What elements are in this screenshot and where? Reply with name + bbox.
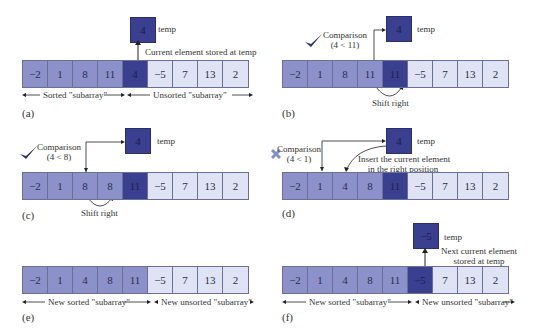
array-cell: 1 — [308, 173, 333, 199]
array-cell: 8 — [358, 173, 383, 199]
comparison-title: Comparison — [36, 142, 82, 152]
array-cell: 11 — [358, 61, 383, 87]
arrows — [260, 220, 520, 330]
array-cell: −5 — [408, 173, 433, 199]
panel-e: −2 1 4 8 11 −5 7 13 2 New sorted "subarr… — [0, 220, 260, 330]
unsorted-range-label: New unsorted "subarray" — [161, 297, 252, 307]
array: −2 1 8 8 11 −5 7 13 2 — [22, 172, 249, 200]
panel-d: 4 temp Comparison (4 < 1) Insert the cur… — [260, 110, 520, 220]
insert-note-line1: Insert the current element — [358, 154, 448, 164]
array-cell: −5 — [148, 173, 173, 199]
array-cell: −5 — [408, 61, 433, 87]
array-cell: 7 — [173, 173, 198, 199]
caption-d: (d) — [282, 207, 295, 219]
array-cell: 8 — [98, 173, 123, 199]
unsorted-range-label: New unsorted "subarray" — [422, 297, 513, 307]
array-cell: 1 — [48, 173, 73, 199]
panel-a: 4 temp Current element stored at temp −2… — [0, 0, 260, 110]
shift-right-label: Shift right — [372, 98, 409, 108]
panel-f: −5 temp Next current element stored at t… — [260, 220, 520, 330]
array-cell: 8 — [333, 61, 358, 87]
array: −2 1 8 11 11 −5 7 13 2 — [282, 60, 509, 88]
sorted-range-label: New sorted "subarray" — [48, 297, 130, 307]
array-cell: 13 — [198, 173, 223, 199]
array: −2 1 4 8 11 −5 7 13 2 — [282, 172, 509, 200]
comparison-label: Comparison (4 < 11) — [322, 30, 368, 50]
arrows — [260, 0, 520, 110]
unsorted-range-label: Unsorted "subarray" — [153, 90, 227, 100]
caption-f: (f) — [282, 311, 293, 323]
array-cell: 13 — [458, 173, 483, 199]
check-icon — [305, 34, 322, 47]
comparison-title: Comparison — [322, 30, 368, 40]
array-cell: 1 — [308, 61, 333, 87]
array-cell: 11 — [383, 61, 408, 87]
array-cell: 2 — [223, 173, 248, 199]
check-icon — [20, 146, 37, 159]
array-cell: 2 — [483, 173, 508, 199]
comparison-expr: (4 < 11) — [322, 40, 368, 50]
array-cell: 11 — [383, 173, 408, 199]
panel-b: 4 temp Comparison (4 < 11) −2 1 8 11 11 … — [260, 0, 520, 110]
array-cell: 2 — [483, 61, 508, 87]
array-cell: −2 — [283, 61, 308, 87]
array-cell: 7 — [433, 61, 458, 87]
sorted-range-label: Sorted "subarray" — [43, 90, 107, 100]
comparison-title: Comparison — [276, 144, 322, 154]
array-cell: −2 — [23, 173, 48, 199]
comparison-label: Comparison (4 < 1) — [276, 144, 322, 164]
sorted-range-label: New sorted "subarray" — [309, 297, 391, 307]
comparison-label: Comparison (4 < 8) — [36, 142, 82, 162]
array-cell: −2 — [283, 173, 308, 199]
panel-c: 4 temp Comparison (4 < 8) −2 1 8 8 11 −5… — [0, 110, 260, 220]
comparison-expr: (4 < 1) — [276, 154, 322, 164]
array-cell: 8 — [73, 173, 98, 199]
array-cell: 4 — [333, 173, 358, 199]
array-cell: 11 — [123, 173, 148, 199]
caption-e: (e) — [22, 311, 34, 323]
array-cell: 13 — [458, 61, 483, 87]
arrows — [0, 220, 260, 330]
array-cell: 7 — [433, 173, 458, 199]
insert-note: Insert the current element in the right … — [358, 154, 448, 174]
shift-right-label: Shift right — [81, 208, 118, 218]
comparison-expr: (4 < 8) — [36, 152, 82, 162]
arrows — [0, 110, 260, 220]
